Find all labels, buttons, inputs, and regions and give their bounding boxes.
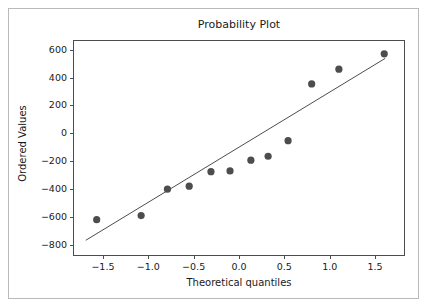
data-point [335,66,342,73]
x-tick-label: −1.5 [91,261,114,272]
plot-area [73,40,405,256]
y-tick-mark [70,245,73,246]
x-tick-label: −0.5 [182,261,205,272]
x-axis-tick-labels: −1.5−1.0−0.50.00.51.01.5 [0,261,427,275]
y-tick-label: −200 [41,156,67,166]
data-point [247,157,254,164]
y-tick-label: −800 [41,240,67,250]
y-tick-label: 400 [49,73,67,83]
x-tick-mark [148,256,149,259]
data-point [207,168,214,175]
y-tick-mark [70,161,73,162]
x-tick-label: 0.5 [277,261,292,272]
data-point [186,183,193,190]
y-tick-mark [70,50,73,51]
data-points [93,50,388,223]
fit-line-path [86,58,385,240]
y-tick-mark [70,78,73,79]
y-axis-title: Ordered Values [17,84,28,204]
y-tick-label: −400 [41,184,67,194]
plot-svg [74,41,406,257]
x-axis-title: Theoretical quantiles [73,277,405,288]
data-point [93,216,100,223]
y-axis-title-wrap: Ordered Values [0,0,1,1]
y-tick-label: 200 [49,100,67,110]
data-point [138,212,145,219]
x-tick-mark [330,256,331,259]
y-tick-label: 600 [49,45,67,55]
x-tick-label: 0.0 [231,261,246,272]
data-point [265,153,272,160]
x-tick-mark [194,256,195,259]
data-point [381,50,388,57]
x-tick-label: −1.0 [137,261,160,272]
x-tick-mark [103,256,104,259]
y-tick-mark [70,217,73,218]
page-title: Probability Plot [73,18,405,32]
x-tick-mark [375,256,376,259]
data-point [284,137,291,144]
y-tick-label: 0 [61,128,67,138]
y-tick-mark [70,105,73,106]
y-tick-mark [70,133,73,134]
probability-plot-figure: Probability Plot 6004002000−200−400−600−… [0,0,427,307]
data-point [164,186,171,193]
fit-line [86,58,385,240]
x-tick-mark [239,256,240,259]
x-tick-label: 1.5 [368,261,383,272]
x-tick-label: 1.0 [322,261,337,272]
y-tick-label: −600 [41,212,67,222]
x-tick-mark [284,256,285,259]
y-tick-mark [70,189,73,190]
data-point [226,167,233,174]
data-point [308,80,315,87]
